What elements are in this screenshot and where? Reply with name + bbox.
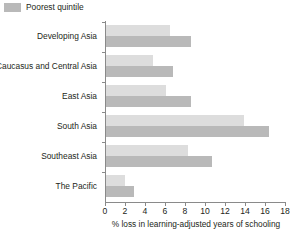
- x-axis-tick-label: 8: [174, 206, 196, 217]
- bar: [106, 186, 134, 197]
- bar: [106, 36, 191, 47]
- x-axis-tick-label: 14: [234, 206, 256, 217]
- legend-swatch-poorest-quintile: [4, 3, 21, 12]
- plot-area: Developing AsiaCaucasus and Central Asia…: [0, 21, 297, 203]
- bar: [106, 156, 212, 167]
- bar: [106, 175, 125, 186]
- x-axis-tick-label: 16: [254, 206, 276, 217]
- category-label: South Asia: [57, 121, 97, 131]
- x-axis-tick-label: 10: [194, 206, 216, 217]
- category-label: Caucasus and Central Asia: [0, 61, 97, 71]
- x-axis-line: [105, 202, 286, 203]
- category-label: Developing Asia: [37, 31, 97, 41]
- bar: [106, 115, 244, 126]
- x-axis-tick-label: 18: [274, 206, 296, 217]
- category-axis-labels: Developing AsiaCaucasus and Central Asia…: [0, 21, 101, 202]
- category-label: Southeast Asia: [41, 151, 97, 161]
- y-axis-tick: [102, 22, 105, 23]
- bar: [106, 96, 191, 107]
- x-axis-tick-label: 6: [154, 206, 176, 217]
- x-axis-tick-label: 0: [94, 206, 116, 217]
- category-label: The Pacific: [56, 181, 97, 191]
- category-label: East Asia: [62, 91, 97, 101]
- bar: [106, 55, 153, 66]
- legend-label-poorest-quintile: Poorest quintile: [26, 3, 84, 12]
- x-axis-tick-label: 2: [114, 206, 136, 217]
- bar: [106, 126, 269, 137]
- y-axis-tick: [102, 52, 105, 53]
- chart-legend: Poorest quintile: [4, 0, 84, 14]
- x-axis-tick-label: 12: [214, 206, 236, 217]
- x-axis-tick-label: 4: [134, 206, 156, 217]
- x-axis-title: % loss in learning-adjusted years of sch…: [105, 219, 287, 230]
- y-axis-tick: [102, 142, 105, 143]
- bar: [106, 25, 170, 36]
- bar: [106, 66, 173, 77]
- y-axis-tick: [102, 172, 105, 173]
- y-axis-tick: [102, 82, 105, 83]
- bar-group: [106, 21, 296, 202]
- y-axis-tick: [102, 112, 105, 113]
- bar: [106, 145, 188, 156]
- bar: [106, 85, 166, 96]
